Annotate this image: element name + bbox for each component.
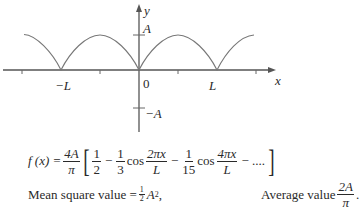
x-axis-label: x <box>275 74 281 87</box>
cos1-argument: 2πx L <box>146 147 167 176</box>
formula-lhs: f (x) = <box>28 153 61 169</box>
mean-square-value: Mean square value = 1 2 A2, <box>28 186 162 203</box>
average-value: Average value 2A π . <box>261 180 359 209</box>
neg-A-label: −A <box>145 107 162 120</box>
half-fraction: 1 2 <box>139 186 145 203</box>
fourier-series-formula: f (x) = 4A π [ 1 2 − 1 3 cos 2πx L − 1 1… <box>28 143 276 179</box>
y-axis-label: y <box>144 4 150 17</box>
close-bracket: ] <box>268 145 274 177</box>
average-fraction: 2A π <box>337 180 353 209</box>
pos-L-label: L <box>209 79 216 92</box>
waveform-plot <box>0 0 362 135</box>
y-axis-arrow-icon <box>136 4 142 12</box>
term3-fraction: 1 15 <box>182 147 195 176</box>
cos2-argument: 4πx L <box>217 147 238 176</box>
open-bracket: [ <box>83 145 89 177</box>
term1-fraction: 1 2 <box>92 147 101 176</box>
term2-fraction: 1 3 <box>116 147 125 176</box>
neg-L-label: −L <box>55 79 71 92</box>
origin-label: 0 <box>143 77 150 90</box>
A-label: A <box>143 22 151 35</box>
coef-fraction: 4A π <box>63 147 79 176</box>
